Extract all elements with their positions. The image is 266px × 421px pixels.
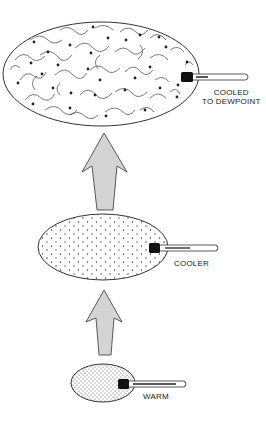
cooled-air-parcel [3,22,248,126]
thermometer-icon [149,243,218,253]
cooled-label-line2: TO DEWPOINT [202,97,261,106]
dewpoint-diagram [0,0,266,421]
thermometer-icon [181,72,248,82]
up-arrow-icon [82,133,127,210]
thermometer-icon [118,379,186,389]
cooler-air-parcel [38,214,218,280]
warm-label: WARM [143,392,169,401]
cooler-label: COOLER [174,259,209,268]
cooled-label: COOLED TO DEWPOINT [202,88,261,106]
cooled-label-line1: COOLED [202,88,261,97]
up-arrow-icon [86,290,122,355]
